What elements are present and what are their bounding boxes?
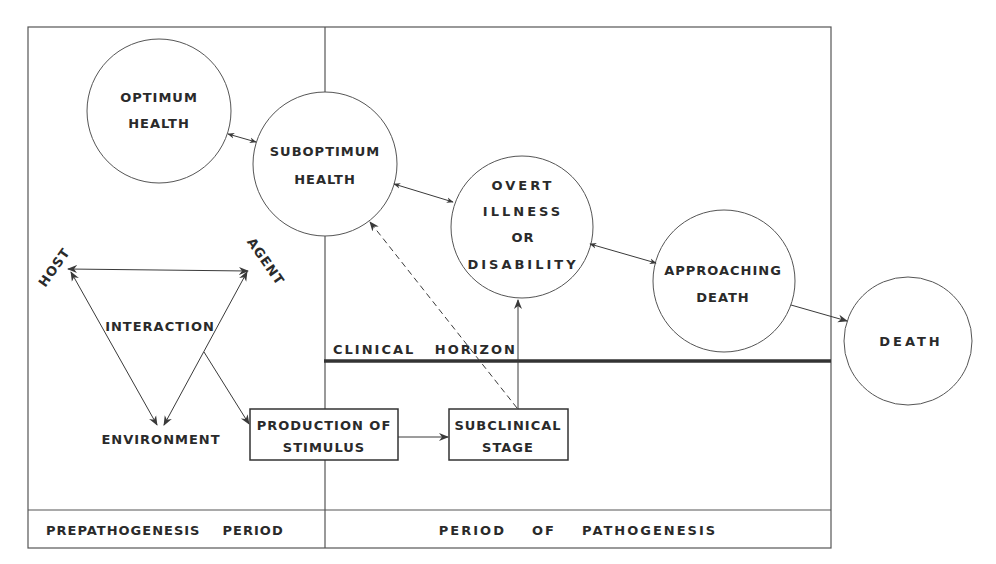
approaching-death-label-1: APPROACHING [664, 263, 782, 278]
prepathogenesis-period-label: PREPATHOGENESIS PERIOD [46, 523, 284, 538]
arrow-suboptimum-overt [394, 184, 453, 202]
production-of-stimulus-label-2: STIMULUS [283, 440, 365, 455]
suboptimum-health-label-2: HEALTH [294, 172, 356, 187]
clinical-horizon-label: CLINICAL HORIZON [333, 342, 517, 357]
arrow-host-environment [71, 272, 157, 425]
arrow-overt-approaching [590, 244, 656, 263]
death-label: DEATH [879, 334, 942, 349]
optimum-health-label-2: HEALTH [128, 116, 190, 131]
subclinical-stage-label-2: STAGE [482, 440, 534, 455]
environment-label: ENVIRONMENT [101, 432, 220, 447]
production-of-stimulus-label-1: PRODUCTION OF [257, 418, 392, 433]
subclinical-stage-label-1: SUBCLINICAL [454, 418, 561, 433]
arrow-optimum-suboptimum [228, 134, 256, 142]
optimum-health-label-1: OPTIMUM [120, 90, 198, 105]
overt-illness-label-4: DISABILITY [467, 257, 578, 272]
overt-illness-label-3: OR [511, 230, 534, 245]
approaching-death-label-2: DEATH [696, 290, 749, 305]
interaction-label: INTERACTION [105, 319, 215, 334]
suboptimum-health-label-1: SUBOPTIMUM [270, 144, 381, 159]
arrow-agent-environment [164, 272, 247, 425]
pathogenesis-period-label: PERIOD OF PATHOGENESIS [439, 523, 717, 538]
natural-history-diagram: OPTIMUM HEALTH SUBOPTIMUM HEALTH OVERT I… [0, 0, 996, 564]
host-label: HOST [36, 245, 74, 290]
arrow-host-agent [68, 269, 248, 271]
arrow-interaction-production [204, 352, 249, 424]
suboptimum-health-node [253, 92, 397, 236]
arrow-approaching-death [791, 305, 847, 321]
overt-illness-label-2: ILLNESS [483, 204, 563, 219]
approaching-death-node [653, 210, 795, 352]
overt-illness-label-1: OVERT [492, 178, 555, 193]
optimum-health-node [87, 39, 231, 183]
agent-label: AGENT [244, 235, 287, 288]
